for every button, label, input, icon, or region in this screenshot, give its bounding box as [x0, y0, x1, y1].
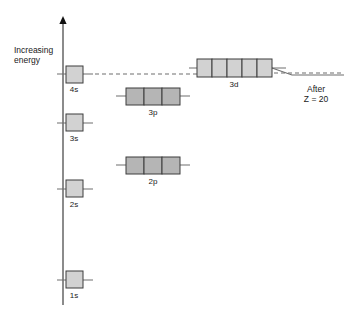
- orbital-label-4s: 4s: [54, 85, 94, 94]
- after-z20-crossover-line: [272, 68, 344, 75]
- orbital-label-3d: 3d: [214, 80, 254, 89]
- energy-axis-arrowhead: [59, 16, 66, 24]
- orbital-energy-diagram: Increasing energy After Z = 20 1s2s2p3s3…: [0, 0, 346, 315]
- orbital-label-1s: 1s: [54, 291, 94, 300]
- orbital-box-3d-5: [257, 59, 272, 77]
- orbital-label-3p: 3p: [133, 108, 173, 117]
- orbital-box-2p-3: [162, 157, 180, 174]
- orbital-box-3d-4: [242, 59, 257, 77]
- orbital-box-2p-2: [144, 157, 162, 174]
- orbital-box-4s-1: [66, 66, 83, 83]
- orbital-box-1s-1: [66, 271, 83, 288]
- orbital-box-3p-3: [162, 88, 180, 105]
- orbital-box-3p-1: [126, 88, 144, 105]
- orbital-box-3d-2: [212, 59, 227, 77]
- orbital-box-3d-1: [197, 59, 212, 77]
- energy-axis-label: Increasing energy: [14, 45, 84, 65]
- orbital-box-3p-2: [144, 88, 162, 105]
- after-z20-annotation: After Z = 20: [288, 84, 344, 104]
- orbital-box-2s-1: [66, 180, 83, 197]
- orbital-label-3s: 3s: [54, 134, 94, 143]
- orbital-box-3d-3: [227, 59, 242, 77]
- orbital-label-2s: 2s: [54, 200, 94, 209]
- orbital-box-2p-1: [126, 157, 144, 174]
- orbital-box-3s-1: [66, 114, 83, 131]
- orbital-label-2p: 2p: [133, 177, 173, 186]
